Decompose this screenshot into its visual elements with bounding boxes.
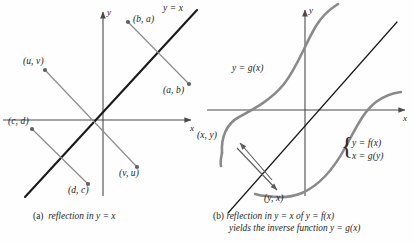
- panel-a-point-label-cd: (c, d): [8, 117, 29, 127]
- panel-a-point-label-ab: (a, b): [163, 86, 184, 96]
- panel-a-point-uv: [43, 68, 47, 72]
- panel-a-identity-line: [25, 10, 197, 197]
- panel-a-point-label-dc: (d, c): [68, 186, 89, 196]
- panel-b-caption-row-1: (b) reflection in y = x of y = f(x): [213, 211, 360, 223]
- panel-a-point-label-uv: (u, v): [23, 57, 44, 67]
- panel-b-caption-prefix: (b): [213, 211, 224, 221]
- panel-a-segment-uv-vu: [45, 70, 137, 167]
- panel-b-caption-line-2: yields the inverse function y = g(x): [229, 223, 360, 233]
- panel-a-point-ba: [126, 20, 130, 24]
- panel-a-identity-line-label: y = x: [163, 4, 183, 14]
- panel-b-arrow-to-xy: [240, 143, 272, 180]
- panel-a-point-ab: [187, 82, 191, 86]
- panel-b-x-axis-label: x: [403, 114, 407, 123]
- panel-b-caption-line-1: reflection in y = x of y = f(x): [226, 211, 334, 221]
- panel-b-caption: (b) reflection in y = x of y = f(x) yiel…: [213, 211, 360, 234]
- panel-a-point-label-ba: (b, a): [133, 15, 154, 25]
- panel-b-graph: [207, 4, 405, 213]
- panel-a-graph: [3, 10, 197, 197]
- panel-b-arrow-to-yx: [237, 148, 277, 190]
- panel-b-point-label-xy: (x, y): [197, 131, 217, 141]
- panel-a-caption-body: reflection in y = x: [48, 211, 115, 221]
- panel-b-system-line-1: y = f(x): [352, 139, 381, 149]
- panel-a-y-axis-label: y: [107, 8, 111, 17]
- figure-vector-layer: [0, 0, 414, 244]
- panel-a-caption: (a) reflection in y = x: [33, 211, 116, 223]
- panel-a-caption-prefix: (a): [33, 211, 43, 221]
- panel-b-caption-row-2: yields the inverse function y = g(x): [213, 223, 360, 235]
- panel-a-point-label-vu: (v, u): [119, 169, 139, 179]
- panel-b-curve-g: [222, 4, 338, 153]
- panel-b-y-axis-label: y: [309, 6, 313, 15]
- panel-b-system-line-2: x = g(y): [352, 152, 383, 162]
- panel-a-x-axis-label: x: [190, 124, 194, 133]
- panel-b-curve-g-tail: [221, 153, 222, 166]
- panel-b-curve-label-g: y = g(x): [232, 64, 263, 74]
- figure-container: y x y = x (b, a) (a, b) (u, v) (v, u) (c…: [0, 0, 414, 244]
- panel-b-identity-line: [228, 22, 397, 213]
- panel-b-point-label-yx: (y, x): [264, 194, 284, 204]
- panel-a-point-cd: [30, 127, 34, 131]
